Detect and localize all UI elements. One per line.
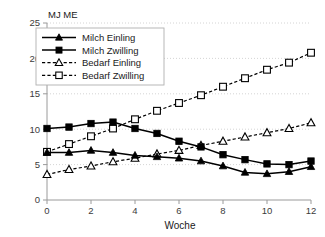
x-axis-title: Woche (165, 220, 196, 231)
marker-open-triangle (263, 129, 271, 136)
marker-open-square (110, 125, 117, 132)
marker-filled-square (88, 120, 94, 126)
marker-filled-square (66, 124, 72, 130)
marker-filled-square (264, 161, 270, 167)
x-tick-label-4: 4 (132, 205, 137, 216)
x-tick-label-10: 10 (262, 205, 273, 216)
marker-open-square (308, 49, 315, 56)
marker-filled-square (56, 47, 62, 53)
marker-open-triangle (109, 158, 117, 165)
marker-open-triangle (307, 119, 315, 126)
x-tick-label-6: 6 (176, 205, 181, 216)
marker-open-square (88, 133, 95, 140)
marker-open-square (56, 72, 62, 78)
y-tick-label-5: 5 (35, 159, 40, 170)
x-tick-label-12: 12 (306, 205, 317, 216)
y-tick-label-10: 10 (29, 124, 40, 135)
marker-filled-square (132, 125, 138, 131)
marker-filled-square (176, 138, 182, 144)
marker-open-triangle (87, 162, 95, 169)
marker-filled-square (242, 156, 248, 162)
marker-open-square (198, 92, 205, 99)
marker-filled-triangle (87, 147, 94, 154)
marker-filled-square (286, 161, 292, 167)
x-tick-label-8: 8 (220, 205, 225, 216)
legend-label-0: Milch Einling (82, 32, 135, 43)
marker-filled-square (198, 144, 204, 150)
series-bedarf-einling (43, 119, 315, 178)
y-tick-label-0: 0 (35, 194, 40, 205)
marker-open-triangle (65, 165, 73, 172)
marker-filled-square (154, 130, 160, 136)
chart-container: 0510152025 024681012 MJ ME Woche Milch E… (0, 0, 325, 237)
marker-filled-square (44, 125, 50, 131)
chart-legend: Milch EinlingMilch ZwillingBedarf Einlin… (36, 28, 164, 85)
marker-open-triangle (219, 137, 227, 144)
marker-open-square (176, 100, 183, 107)
marker-open-square (264, 66, 271, 73)
marker-open-square (242, 75, 249, 82)
marker-filled-square (110, 119, 116, 125)
marker-open-triangle (241, 133, 249, 140)
marker-open-square (66, 141, 73, 148)
marker-filled-square (308, 158, 314, 164)
y-axis-unit-label: MJ ME (48, 9, 78, 20)
legend-label-1: Milch Zwilling (82, 45, 138, 56)
y-tick-label-25: 25 (29, 17, 40, 28)
y-tick-label-15: 15 (29, 88, 40, 99)
marker-open-square (154, 107, 161, 114)
x-tick-label-0: 0 (44, 205, 49, 216)
marker-open-square (132, 116, 139, 123)
legend-label-2: Bedarf Einling (82, 57, 141, 68)
x-tick-label-2: 2 (88, 205, 93, 216)
legend-label-3: Bedarf Zwilling (82, 70, 144, 81)
marker-open-square (286, 59, 293, 66)
line-chart: 0510152025 024681012 MJ ME Woche Milch E… (0, 0, 325, 237)
x-axis-ticks: 024681012 (44, 200, 316, 216)
marker-open-square (220, 83, 227, 90)
marker-filled-square (220, 151, 226, 157)
